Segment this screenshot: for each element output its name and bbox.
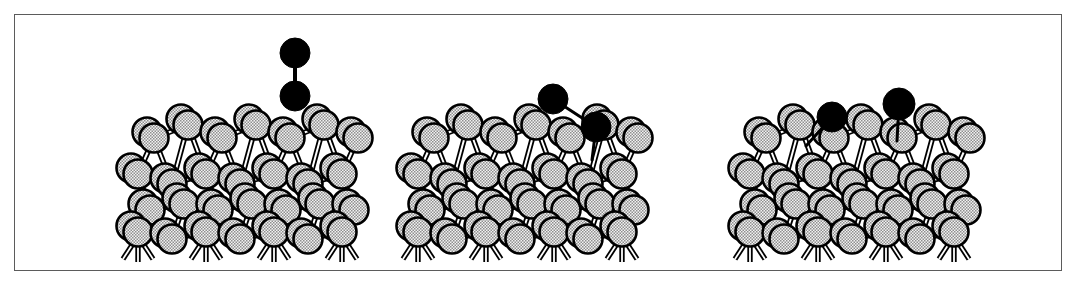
- figure-root: Dissociative adsorption of a diatomic mo…: [0, 0, 1079, 286]
- panel-dissociated-atoms: [696, 20, 1060, 265]
- panel-chemisorbed-molecule: [356, 20, 696, 265]
- panel-physisorbed-molecule: [16, 20, 356, 265]
